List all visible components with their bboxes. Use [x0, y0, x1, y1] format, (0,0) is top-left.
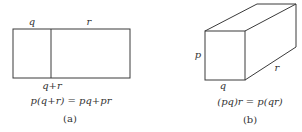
box-front-face	[205, 31, 245, 80]
label-q: q	[29, 16, 35, 27]
label-q-b: q	[220, 80, 226, 91]
figure-a: q r q+r p(q+r) = pq+pr (a)	[13, 16, 130, 124]
figure-b: p q r (pq)r = p(qr) (b)	[195, 4, 296, 125]
box-top-right-edge	[245, 4, 296, 31]
diagram-canvas: q r q+r p(q+r) = pq+pr (a) p q r (pq)r =…	[0, 0, 302, 132]
label-p: p	[195, 49, 202, 60]
box-top-left-edge	[205, 4, 257, 31]
label-r-b: r	[275, 62, 281, 73]
rectangle-pq-plus-pr	[13, 29, 130, 78]
caption-a: (a)	[63, 113, 77, 124]
label-q-plus-r: q+r	[42, 80, 63, 91]
label-r: r	[87, 16, 93, 27]
equation-distributive: p(q+r) = pq+pr	[31, 95, 113, 106]
equation-associative: (pq)r = p(qr)	[217, 96, 283, 107]
caption-b: (b)	[243, 114, 257, 125]
box-bottom-right-edge	[245, 47, 296, 80]
